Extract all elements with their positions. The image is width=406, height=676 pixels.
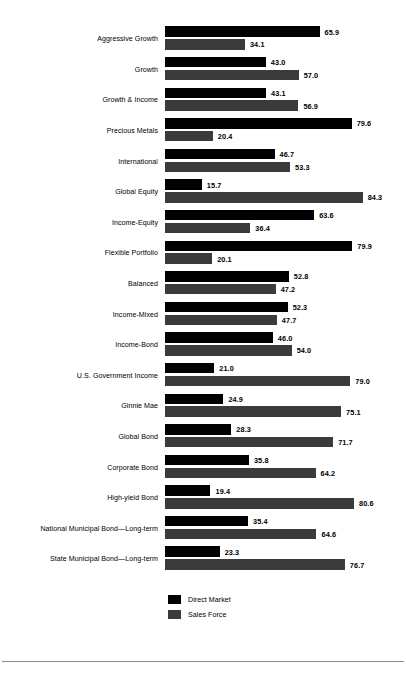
category-bar-group: 52.847.2 <box>165 269 406 300</box>
bar-sales-force <box>165 529 316 540</box>
category-label: Growth <box>0 65 158 74</box>
category-label: Aggressive Growth <box>0 35 158 44</box>
grouped-bar-chart: Aggressive Growth65.934.1Growth43.057.0G… <box>0 0 406 676</box>
category-bar-group: 28.371.7 <box>165 422 406 453</box>
chart-category-row: Global Equity15.784.3 <box>0 177 406 208</box>
chart-legend: Direct MarketSales Force <box>168 592 231 622</box>
bar-sales-force <box>165 315 277 326</box>
bar-value-label: 46.0 <box>278 333 293 342</box>
category-label: Ginnie Mae <box>0 402 158 411</box>
bar-sales-force <box>165 253 212 264</box>
chart-category-row: Global Bond28.371.7 <box>0 422 406 453</box>
category-label: High-yield Bond <box>0 494 158 503</box>
chart-category-row: U.S. Government Income21.079.0 <box>0 361 406 392</box>
bar-direct-market <box>165 210 314 221</box>
bar-direct-market <box>165 455 249 466</box>
bar-value-label: 52.8 <box>294 272 309 281</box>
bar-direct-market <box>165 332 273 343</box>
bar-value-label: 46.7 <box>280 150 295 159</box>
bar-sales-force <box>165 131 213 142</box>
category-bar-group: 79.620.4 <box>165 116 406 147</box>
category-bar-group: 24.975.1 <box>165 391 406 422</box>
bar-value-label: 75.1 <box>346 407 361 416</box>
bar-value-label: 47.2 <box>281 285 296 294</box>
bar-sales-force <box>165 468 316 479</box>
category-label: Global Equity <box>0 188 158 197</box>
bar-direct-market <box>165 179 202 190</box>
category-bar-group: 63.636.4 <box>165 208 406 239</box>
chart-category-row: Income-Equity63.636.4 <box>0 208 406 239</box>
chart-category-row: Growth43.057.0 <box>0 55 406 86</box>
category-bar-group: 46.753.3 <box>165 146 406 177</box>
chart-category-row: Growth & Income43.156.9 <box>0 85 406 116</box>
bar-value-label: 65.9 <box>325 27 340 36</box>
chart-category-row: Ginnie Mae24.975.1 <box>0 391 406 422</box>
bar-value-label: 19.4 <box>215 486 230 495</box>
category-bar-group: 19.480.6 <box>165 483 406 514</box>
chart-category-row: Income-Mixed52.347.7 <box>0 299 406 330</box>
category-label: National Municipal Bond—Long-term <box>0 524 158 533</box>
chart-category-row: Flexible Portfolio79.920.1 <box>0 238 406 269</box>
bar-value-label: 35.8 <box>254 455 269 464</box>
chart-category-row: Balanced52.847.2 <box>0 269 406 300</box>
category-bar-group: 79.920.1 <box>165 238 406 269</box>
chart-category-row: Aggressive Growth65.934.1 <box>0 24 406 55</box>
bar-value-label: 52.3 <box>293 302 308 311</box>
chart-category-row: Corporate Bond35.864.2 <box>0 452 406 483</box>
bar-value-label: 71.7 <box>338 438 353 447</box>
bar-direct-market <box>165 149 275 160</box>
bar-sales-force <box>165 100 298 111</box>
chart-category-row: State Municipal Bond—Long-term23.376.7 <box>0 544 406 575</box>
category-bar-group: 65.934.1 <box>165 24 406 55</box>
bar-value-label: 79.6 <box>357 119 372 128</box>
bar-sales-force <box>165 162 290 173</box>
chart-category-row: Income-Bond46.054.0 <box>0 330 406 361</box>
bar-sales-force <box>165 406 341 417</box>
chart-category-row: International46.753.3 <box>0 146 406 177</box>
category-bar-group: 23.376.7 <box>165 544 406 575</box>
legend-item: Sales Force <box>168 607 231 622</box>
bar-value-label: 36.4 <box>255 224 270 233</box>
bar-value-label: 35.4 <box>253 517 268 526</box>
bar-direct-market <box>165 546 220 557</box>
chart-category-row: National Municipal Bond—Long-term35.464.… <box>0 514 406 545</box>
bar-sales-force <box>165 498 354 509</box>
chart-category-row: High-yield Bond19.480.6 <box>0 483 406 514</box>
category-bar-group: 52.347.7 <box>165 299 406 330</box>
bar-direct-market <box>165 118 352 129</box>
category-label: U.S. Government Income <box>0 371 158 380</box>
bar-sales-force <box>165 70 299 81</box>
chart-plot-area: Aggressive Growth65.934.1Growth43.057.0G… <box>0 24 406 575</box>
bar-value-label: 84.3 <box>368 193 383 202</box>
bar-value-label: 80.6 <box>359 499 374 508</box>
bar-sales-force <box>165 284 276 295</box>
bar-direct-market <box>165 26 320 37</box>
bar-value-label: 57.0 <box>304 71 319 80</box>
category-bar-group: 35.464.6 <box>165 514 406 545</box>
bar-direct-market <box>165 485 210 496</box>
category-bar-group: 15.784.3 <box>165 177 406 208</box>
bar-value-label: 63.6 <box>319 211 334 220</box>
bar-value-label: 76.7 <box>350 560 365 569</box>
bar-sales-force <box>165 223 250 234</box>
bar-value-label: 20.1 <box>217 254 232 263</box>
category-label: International <box>0 157 158 166</box>
category-label: Corporate Bond <box>0 463 158 472</box>
bar-value-label: 23.3 <box>225 547 240 556</box>
category-label: Balanced <box>0 280 158 289</box>
bar-value-label: 24.9 <box>228 394 243 403</box>
bar-sales-force <box>165 192 363 203</box>
bar-direct-market <box>165 363 214 374</box>
bar-value-label: 28.3 <box>236 425 251 434</box>
bar-direct-market <box>165 424 231 435</box>
bar-value-label: 20.4 <box>218 132 233 141</box>
bar-value-label: 54.0 <box>297 346 312 355</box>
legend-label: Direct Market <box>188 596 231 604</box>
category-label: Income-Mixed <box>0 310 158 319</box>
bar-value-label: 34.1 <box>250 40 265 49</box>
bar-value-label: 47.7 <box>282 315 297 324</box>
bar-value-label: 53.3 <box>295 162 310 171</box>
bar-value-label: 79.9 <box>357 241 372 250</box>
legend-item: Direct Market <box>168 592 231 607</box>
category-bar-group: 43.156.9 <box>165 85 406 116</box>
